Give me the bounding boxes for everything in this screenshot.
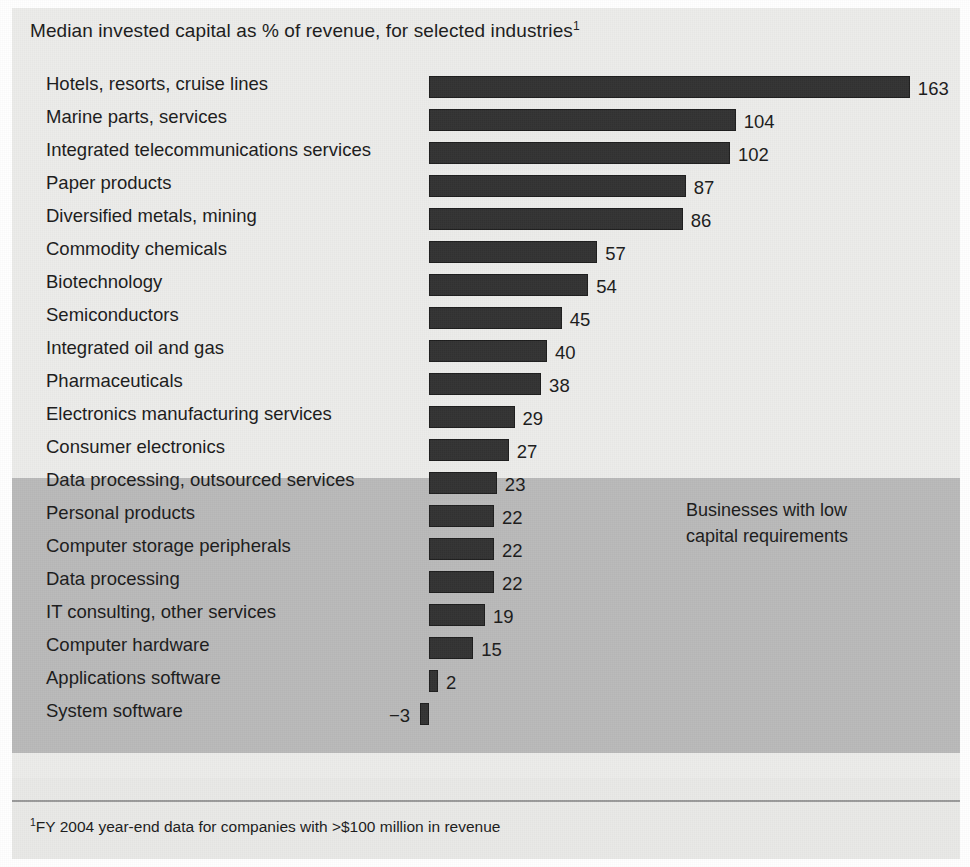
footnote: 1FY 2004 year-end data for companies wit… bbox=[30, 818, 500, 836]
bar bbox=[429, 307, 562, 329]
bar bbox=[429, 142, 730, 164]
bar-row: Diversified metals, mining86 bbox=[0, 202, 970, 235]
category-label: Semiconductors bbox=[46, 304, 179, 326]
category-label: Marine parts, services bbox=[46, 106, 227, 128]
bar-value-label: 54 bbox=[596, 276, 617, 298]
bar-value-label: 38 bbox=[549, 375, 570, 397]
bar-row: Marine parts, services104 bbox=[0, 103, 970, 136]
bar-row: Paper products87 bbox=[0, 169, 970, 202]
bar-row: Integrated oil and gas40 bbox=[0, 334, 970, 367]
bar bbox=[429, 505, 494, 527]
bar-row: Data processing22 bbox=[0, 565, 970, 598]
bar bbox=[429, 274, 588, 296]
category-label: Paper products bbox=[46, 172, 171, 194]
bar bbox=[429, 571, 494, 593]
bar bbox=[429, 241, 597, 263]
bar-row: Integrated telecommunications services10… bbox=[0, 136, 970, 169]
bar-value-label: 104 bbox=[744, 111, 775, 133]
chart-title-text: Median invested capital as % of revenue,… bbox=[30, 20, 573, 41]
bar-value-label: 163 bbox=[918, 78, 949, 100]
exhibit-container: Median invested capital as % of revenue,… bbox=[0, 0, 970, 867]
bar bbox=[429, 373, 541, 395]
category-label: Biotechnology bbox=[46, 271, 162, 293]
category-label: Personal products bbox=[46, 502, 195, 524]
chart-title-footnote-marker: 1 bbox=[573, 19, 580, 33]
footnote-text: FY 2004 year-end data for companies with… bbox=[36, 818, 501, 835]
category-label: Data processing, outsourced services bbox=[46, 469, 354, 491]
bar-row: Biotechnology54 bbox=[0, 268, 970, 301]
bar-row: Applications software2 bbox=[0, 664, 970, 697]
category-label: Consumer electronics bbox=[46, 436, 225, 458]
bar bbox=[429, 76, 910, 98]
category-label: Data processing bbox=[46, 568, 180, 590]
bar-row: Data processing, outsourced services23 bbox=[0, 466, 970, 499]
bar bbox=[429, 175, 686, 197]
category-label: Hotels, resorts, cruise lines bbox=[46, 73, 268, 95]
bar-value-label: 40 bbox=[555, 342, 576, 364]
category-label: Integrated telecommunications services bbox=[46, 139, 371, 161]
category-label: Electronics manufacturing services bbox=[46, 403, 332, 425]
bar-value-label: −3 bbox=[389, 705, 410, 727]
bar bbox=[429, 208, 683, 230]
bar-value-label: 57 bbox=[605, 243, 626, 265]
category-label: Integrated oil and gas bbox=[46, 337, 224, 359]
bar-value-label: 102 bbox=[738, 144, 769, 166]
bar bbox=[429, 670, 438, 692]
bar-row: System software−3 bbox=[0, 697, 970, 730]
bar bbox=[429, 406, 515, 428]
bar-rows: Hotels, resorts, cruise lines163Marine p… bbox=[0, 70, 970, 730]
bar bbox=[429, 340, 547, 362]
category-label: Computer hardware bbox=[46, 634, 210, 656]
bar bbox=[429, 439, 509, 461]
bar-row: Semiconductors45 bbox=[0, 301, 970, 334]
bar-value-label: 23 bbox=[505, 474, 526, 496]
category-label: Pharmaceuticals bbox=[46, 370, 183, 392]
bar-row: Commodity chemicals57 bbox=[0, 235, 970, 268]
bar-value-label: 22 bbox=[502, 540, 523, 562]
bar-row: Consumer electronics27 bbox=[0, 433, 970, 466]
category-label: Commodity chemicals bbox=[46, 238, 227, 260]
bar-value-label: 29 bbox=[523, 408, 544, 430]
bar-row: Hotels, resorts, cruise lines163 bbox=[0, 70, 970, 103]
bar-value-label: 45 bbox=[570, 309, 591, 331]
bar-row: IT consulting, other services19 bbox=[0, 598, 970, 631]
bar bbox=[429, 472, 497, 494]
bar-value-label: 15 bbox=[481, 639, 502, 661]
highlight-callout-label: Businesses with low capital requirements bbox=[686, 497, 848, 549]
bar-value-label: 2 bbox=[446, 672, 456, 694]
bar-row: Computer hardware15 bbox=[0, 631, 970, 664]
bar bbox=[429, 109, 736, 131]
bar-row: Electronics manufacturing services29 bbox=[0, 400, 970, 433]
category-label: IT consulting, other services bbox=[46, 601, 276, 623]
bar bbox=[429, 538, 494, 560]
chart-title: Median invested capital as % of revenue,… bbox=[30, 20, 580, 42]
category-label: Computer storage peripherals bbox=[46, 535, 291, 557]
footnote-divider bbox=[12, 800, 960, 802]
bar-value-label: 87 bbox=[694, 177, 715, 199]
category-label: System software bbox=[46, 700, 183, 722]
bar-value-label: 27 bbox=[517, 441, 538, 463]
category-label: Applications software bbox=[46, 667, 221, 689]
bar bbox=[429, 604, 485, 626]
bar bbox=[429, 637, 473, 659]
bar-value-label: 19 bbox=[493, 606, 514, 628]
bar-value-label: 86 bbox=[691, 210, 712, 232]
bar bbox=[420, 703, 429, 725]
bar-value-label: 22 bbox=[502, 573, 523, 595]
bar-value-label: 22 bbox=[502, 507, 523, 529]
bar-row: Pharmaceuticals38 bbox=[0, 367, 970, 400]
category-label: Diversified metals, mining bbox=[46, 205, 257, 227]
